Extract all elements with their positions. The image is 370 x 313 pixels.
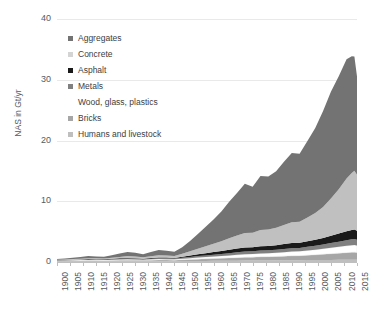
legend-item-aggregates[interactable]: Aggregates — [68, 30, 161, 46]
legend-swatch-icon — [68, 100, 73, 105]
legend-swatch-icon — [68, 84, 73, 89]
legend-label: Bricks — [78, 113, 101, 123]
y-tick-0: 0 — [25, 256, 51, 266]
x-tick-mark-1905 — [70, 263, 71, 266]
x-tick-2015: 2015 — [361, 272, 370, 291]
x-tick-mark-1945 — [174, 263, 175, 266]
y-tick-10: 10 — [25, 195, 51, 205]
x-tick-mark-1950 — [187, 263, 188, 266]
legend-item-metals[interactable]: Metals — [68, 78, 161, 94]
y-tick-30: 30 — [25, 74, 51, 84]
x-tick-mark-1915 — [96, 263, 97, 266]
x-tick-mark-1925 — [122, 263, 123, 266]
legend-swatch-icon — [68, 36, 73, 41]
x-tick-1985: 1985 — [282, 272, 291, 291]
x-tick-mark-2015 — [357, 263, 358, 266]
legend-label: Metals — [78, 81, 103, 91]
legend-label: Aggregates — [78, 33, 121, 43]
x-tick-2005: 2005 — [334, 272, 343, 291]
x-tick-mark-1920 — [109, 263, 110, 266]
x-tick-1980: 1980 — [269, 272, 278, 291]
x-tick-2000: 2000 — [321, 272, 330, 291]
x-axis-tick-labels: 1900190519101915192019251930193519401945… — [57, 263, 357, 313]
legend-item-asphalt[interactable]: Asphalt — [68, 62, 161, 78]
x-tick-mark-1975 — [253, 263, 254, 266]
legend-label: Wood, glass, plastics — [78, 97, 158, 107]
x-tick-1975: 1975 — [256, 272, 265, 291]
x-tick-1905: 1905 — [74, 272, 83, 291]
x-tick-mark-1965 — [227, 263, 228, 266]
x-tick-1935: 1935 — [152, 272, 161, 291]
x-tick-1965: 1965 — [230, 272, 239, 291]
x-tick-mark-1970 — [240, 263, 241, 266]
x-tick-mark-1990 — [292, 263, 293, 266]
legend-item-wood-glass-plastics[interactable]: Wood, glass, plastics — [68, 94, 161, 110]
x-tick-mark-1930 — [135, 263, 136, 266]
x-tick-2010: 2010 — [348, 272, 357, 291]
x-tick-1970: 1970 — [243, 272, 252, 291]
x-tick-mark-2010 — [344, 263, 345, 266]
x-tick-mark-2005 — [331, 263, 332, 266]
x-tick-1900: 1900 — [61, 272, 70, 291]
x-tick-1960: 1960 — [217, 272, 226, 291]
x-tick-mark-2000 — [318, 263, 319, 266]
legend-swatch-icon — [68, 68, 73, 73]
x-tick-mark-1900 — [57, 263, 58, 266]
x-tick-mark-1960 — [214, 263, 215, 266]
x-tick-mark-1995 — [305, 263, 306, 266]
x-tick-1995: 1995 — [308, 272, 317, 291]
legend-swatch-icon — [68, 132, 73, 137]
legend-swatch-icon — [68, 116, 73, 121]
legend-item-concrete[interactable]: Concrete — [68, 46, 161, 62]
x-tick-1910: 1910 — [87, 272, 96, 291]
x-tick-mark-1935 — [148, 263, 149, 266]
x-tick-mark-1940 — [161, 263, 162, 266]
x-tick-1940: 1940 — [165, 272, 174, 291]
legend-item-humans-and-livestock[interactable]: Humans and livestock — [68, 126, 161, 142]
x-tick-1955: 1955 — [204, 272, 213, 291]
x-tick-mark-1980 — [266, 263, 267, 266]
y-tick-40: 40 — [25, 13, 51, 23]
x-tick-mark-1955 — [201, 263, 202, 266]
legend-swatch-icon — [68, 52, 73, 57]
x-tick-1950: 1950 — [191, 272, 200, 291]
legend-item-bricks[interactable]: Bricks — [68, 110, 161, 126]
legend-label: Asphalt — [78, 65, 106, 75]
y-tick-20: 20 — [25, 135, 51, 145]
legend-label: Concrete — [78, 49, 113, 59]
x-tick-mark-1985 — [279, 263, 280, 266]
x-tick-1915: 1915 — [100, 272, 109, 291]
x-tick-1920: 1920 — [113, 272, 122, 291]
chart-legend: AggregatesConcreteAsphaltMetalsWood, gla… — [68, 30, 161, 142]
x-tick-1930: 1930 — [139, 272, 148, 291]
y-axis-title: NAS in Gt/yr — [13, 73, 23, 153]
legend-label: Humans and livestock — [78, 129, 161, 139]
x-tick-mark-1910 — [83, 263, 84, 266]
x-tick-1925: 1925 — [126, 272, 135, 291]
x-tick-1990: 1990 — [295, 272, 304, 291]
x-tick-1945: 1945 — [178, 272, 187, 291]
